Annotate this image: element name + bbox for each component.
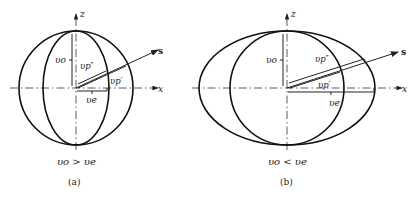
ve-bracket-a	[77, 88, 107, 94]
wave-surface-diagram: s z x υo υp″ υp′ υe υo > υe (a) s z x	[0, 0, 416, 198]
z-label-b: z	[290, 9, 296, 19]
vo-bracket-a	[69, 34, 72, 86]
caption-a: (a)	[68, 177, 80, 187]
vp-single-label-b: υp′	[318, 80, 331, 90]
ve-bracket-b	[288, 88, 374, 95]
vo-bracket-b	[280, 34, 283, 86]
vp-double-label-a: υp″	[80, 61, 95, 71]
x-label-a: x	[158, 84, 163, 94]
ve-label-a: υe	[86, 95, 97, 105]
s-direction-b	[287, 52, 398, 88]
caption-b: (b)	[280, 177, 293, 187]
vo-label-a: υo	[55, 55, 66, 65]
condition-b: υo < υe	[268, 156, 307, 167]
ve-label-b: υe	[329, 98, 340, 108]
condition-a: υo > υe	[57, 156, 96, 167]
vp-double-label-b: υp″	[315, 54, 330, 64]
vo-label-b: υo	[266, 55, 277, 65]
panel-b: s z x υo υp″ υp′ υe υo < υe (b)	[192, 9, 407, 187]
x-label-b: x	[402, 84, 407, 94]
panel-a: s z x υo υp″ υp′ υe υo > υe (a)	[10, 9, 163, 187]
vp-single-label-a: υp′	[110, 76, 123, 86]
s-label-b: s	[401, 47, 406, 57]
s-label-a: s	[158, 46, 163, 56]
z-label-a: z	[79, 9, 85, 19]
